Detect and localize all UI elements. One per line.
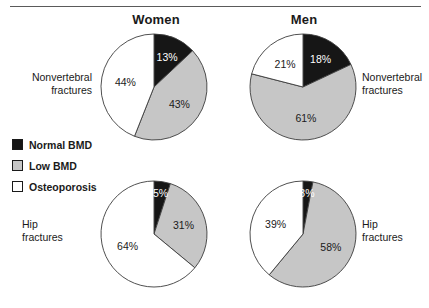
row-label-line-1: Hip [22, 218, 92, 231]
column-title-women: Women [104, 12, 208, 27]
pie-chart-men-hip: 3%58%39% [249, 180, 357, 288]
column-title-men: Men [252, 12, 356, 27]
legend-swatch-osteoporosis [12, 181, 23, 192]
pie-svg-men-nonvertebral [249, 33, 357, 141]
row-label-line-1: Nonvertebral [362, 71, 429, 84]
row-label-line-2: fractures [4, 84, 92, 97]
legend: Normal BMD Low BMD Osteoporosis [12, 136, 97, 199]
legend-item-normal-bmd: Normal BMD [12, 136, 97, 153]
row-label-line-2: fractures [362, 84, 429, 97]
header-divider [10, 6, 421, 7]
pie-chart-women-hip: 5%31%64% [100, 180, 208, 288]
pie-svg-men-hip [249, 180, 357, 288]
pie-chart-women-nonvertebral: 13%43%44% [100, 33, 208, 141]
legend-label-osteoporosis: Osteoporosis [29, 181, 97, 193]
pie-svg-women-hip [100, 180, 208, 288]
legend-item-low-bmd: Low BMD [12, 157, 97, 174]
row-label-line-2: fractures [22, 231, 92, 244]
figure-root: Women Men Nonvertebral fractures Nonvert… [0, 0, 429, 308]
row-label-line-2: fractures [362, 231, 429, 244]
row-label-line-1: Hip [362, 218, 429, 231]
row-label-nonvertebral-right: Nonvertebral fractures [362, 71, 429, 96]
legend-swatch-normal-bmd [12, 139, 23, 150]
legend-item-osteoporosis: Osteoporosis [12, 178, 97, 195]
row-label-line-1: Nonvertebral [4, 71, 92, 84]
row-label-hip-right: Hip fractures [362, 218, 429, 243]
legend-label-normal-bmd: Normal BMD [29, 139, 92, 151]
pie-chart-men-nonvertebral: 18%61%21% [249, 33, 357, 141]
legend-label-low-bmd: Low BMD [29, 160, 77, 172]
pie-svg-women-nonvertebral [100, 33, 208, 141]
legend-swatch-low-bmd [12, 160, 23, 171]
row-label-nonvertebral-left: Nonvertebral fractures [4, 71, 92, 96]
row-label-hip-left: Hip fractures [22, 218, 92, 243]
